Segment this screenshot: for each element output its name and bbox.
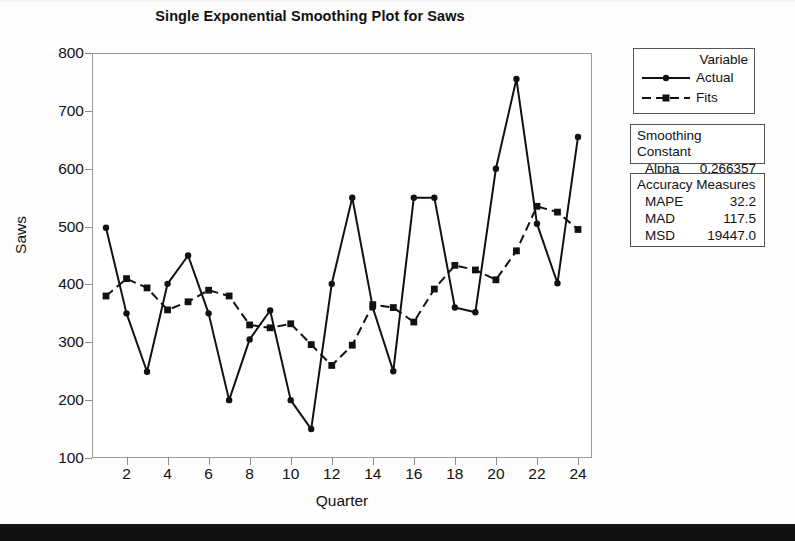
data-point-fits	[369, 301, 376, 308]
data-point-fits	[185, 298, 192, 305]
y-tick-mark	[85, 400, 92, 401]
legend-title: Variable	[640, 52, 748, 68]
x-tick-label: 4	[148, 466, 188, 482]
x-tick-label: 18	[435, 466, 475, 482]
x-tick-mark	[332, 458, 333, 465]
y-tick-mark	[85, 342, 92, 343]
accuracy-key: MAPE	[645, 193, 683, 210]
data-point-actual	[246, 336, 252, 342]
x-tick-mark	[496, 458, 497, 465]
x-tick-mark	[414, 458, 415, 465]
data-point-fits	[164, 306, 171, 313]
accuracy-value: 117.5	[723, 210, 756, 227]
data-point-fits	[472, 267, 479, 274]
data-point-actual	[513, 76, 519, 82]
data-point-fits	[308, 341, 315, 348]
y-tick-label: 200	[32, 392, 84, 408]
y-tick-mark	[85, 111, 92, 112]
x-tick-label: 14	[353, 466, 393, 482]
data-point-actual	[267, 307, 273, 313]
data-point-fits	[451, 262, 458, 269]
x-tick-label: 22	[517, 466, 557, 482]
data-point-fits	[226, 293, 233, 300]
legend-line-solid-icon	[640, 70, 692, 86]
accuracy-row: MAPE32.2	[637, 193, 758, 210]
data-point-actual	[554, 280, 560, 286]
y-tick-mark	[85, 169, 92, 170]
x-tick-mark	[373, 458, 374, 465]
bottom-bar	[0, 524, 795, 541]
variable-legend-box: Variable Actual Fits	[633, 48, 755, 114]
smoothing-constant-title: Smoothing Constant	[637, 128, 758, 160]
x-tick-mark	[455, 458, 456, 465]
accuracy-key: MSD	[645, 227, 675, 244]
data-point-fits	[123, 275, 130, 282]
data-point-fits	[246, 322, 253, 329]
series-line-actual	[106, 79, 578, 429]
y-tick-label: 800	[32, 45, 84, 61]
data-point-actual	[431, 194, 437, 200]
x-tick-mark	[291, 458, 292, 465]
data-point-actual	[226, 397, 232, 403]
y-tick-label: 500	[32, 219, 84, 235]
plot-series-canvas	[92, 53, 592, 458]
data-point-fits	[328, 362, 335, 369]
data-point-fits	[287, 320, 294, 327]
accuracy-measures-box: Accuracy Measures MAPE32.2MAD117.5MSD194…	[630, 173, 765, 247]
data-point-fits	[103, 293, 110, 300]
x-tick-label: 10	[271, 466, 311, 482]
data-point-actual	[123, 310, 129, 316]
data-point-actual	[308, 426, 314, 432]
accuracy-measures-title: Accuracy Measures	[637, 177, 758, 193]
x-tick-label: 6	[189, 466, 229, 482]
data-point-actual	[185, 252, 191, 258]
page-title: Single Exponential Smoothing Plot for Sa…	[0, 8, 620, 24]
x-tick-mark	[209, 458, 210, 465]
data-point-fits	[144, 285, 151, 292]
accuracy-row: MSD19447.0	[637, 227, 758, 244]
y-tick-mark	[85, 458, 92, 459]
data-point-fits	[431, 286, 438, 293]
y-tick-label: 700	[32, 103, 84, 119]
data-point-fits	[267, 324, 274, 331]
legend-label-actual: Actual	[692, 70, 734, 86]
data-point-actual	[493, 166, 499, 172]
legend-entry-actual: Actual	[640, 68, 748, 88]
x-tick-mark	[537, 458, 538, 465]
data-point-actual	[288, 397, 294, 403]
x-tick-label: 16	[394, 466, 434, 482]
data-point-actual	[452, 304, 458, 310]
x-tick-label: 12	[312, 466, 352, 482]
y-tick-mark	[85, 53, 92, 54]
data-point-fits	[513, 247, 520, 254]
x-tick-label: 24	[558, 466, 598, 482]
data-point-actual	[103, 225, 109, 231]
data-point-actual	[329, 281, 335, 287]
data-point-fits	[205, 287, 212, 294]
y-tick-mark	[85, 227, 92, 228]
data-point-fits	[575, 226, 582, 233]
data-point-actual	[144, 369, 150, 375]
data-point-actual	[534, 220, 540, 226]
chart-page: Single Exponential Smoothing Plot for Sa…	[0, 0, 795, 541]
x-tick-label: 8	[230, 466, 270, 482]
x-tick-label: 2	[107, 466, 147, 482]
accuracy-key: MAD	[645, 210, 675, 227]
legend-label-fits: Fits	[692, 90, 718, 106]
x-tick-mark	[578, 458, 579, 465]
legend-entry-fits: Fits	[640, 88, 748, 108]
y-tick-label: 100	[32, 450, 84, 466]
data-point-fits	[554, 209, 561, 216]
data-point-fits	[493, 276, 500, 283]
y-axis-ticks: 100200300400500600700800	[22, 53, 84, 458]
data-point-fits	[534, 203, 541, 210]
page-top-edge	[0, 0, 795, 2]
y-tick-label: 400	[32, 276, 84, 292]
x-tick-mark	[250, 458, 251, 465]
x-tick-label: 20	[476, 466, 516, 482]
data-point-actual	[575, 134, 581, 140]
y-tick-label: 600	[32, 161, 84, 177]
x-tick-mark	[127, 458, 128, 465]
x-tick-mark	[168, 458, 169, 465]
accuracy-value: 19447.0	[707, 227, 756, 244]
